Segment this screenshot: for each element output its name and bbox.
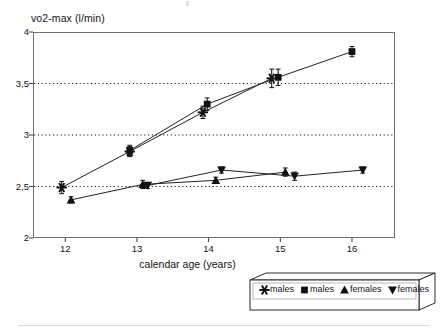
legend-label: males (270, 284, 294, 294)
x-axis-title: calendar age (years) (0, 258, 447, 270)
triangle-down-icon (387, 284, 396, 294)
triangle-up-icon (339, 284, 348, 294)
legend-entry-3: females (387, 284, 430, 294)
legend: malesmalesfemalesfemales (249, 272, 437, 314)
legend-label: females (398, 284, 430, 294)
asterisk-icon (259, 284, 268, 294)
square-icon (299, 284, 308, 294)
y-axis-title: vo2-max (l/min) (31, 12, 105, 24)
plot-area (33, 32, 395, 238)
legend-entry-1: males (299, 284, 334, 294)
legend-entry-2: females (339, 284, 382, 294)
x-tick-label: 12 (52, 243, 78, 254)
legend-entry-0: males (259, 284, 294, 294)
chart-figure: vo2-max (l/min) 22,533,54 1213141516 cal… (0, 0, 447, 333)
y-tick-label: 2 (1, 232, 29, 243)
y-tick-label: 3 (1, 129, 29, 140)
x-tick-label: 15 (267, 243, 293, 254)
x-tick-label: 16 (339, 243, 365, 254)
legend-label: males (310, 284, 334, 294)
y-tick-label: 4 (1, 26, 29, 37)
scan-artifact (186, 1, 189, 6)
x-axis-title-text: calendar age (years) (139, 258, 235, 270)
x-tick-label: 14 (196, 243, 222, 254)
legend-label: females (350, 284, 382, 294)
y-tick-label: 3,5 (1, 78, 29, 89)
y-tick-label: 2,5 (1, 181, 29, 192)
page-divider (18, 325, 429, 326)
legend-items: malesmalesfemalesfemales (259, 281, 427, 297)
x-tick-label: 13 (124, 243, 150, 254)
